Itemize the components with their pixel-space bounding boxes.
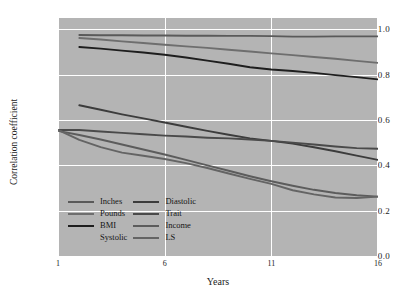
x-tick-label: 16 [358,259,395,268]
legend-swatch-pounds [68,213,94,215]
legend-swatch-ls [133,237,159,239]
x-tick-label: 1 [38,259,78,268]
legend-label-pounds: Pounds [100,208,127,219]
series-line-income [58,131,378,197]
x-tick-label: 11 [251,259,291,268]
chart-legend: Inches Diastolic Pounds Trait BMI Income… [68,196,196,243]
legend-label-systolic: Systolic [100,232,127,243]
series-line-inches [79,35,378,37]
legend-label-trait: Trait [165,208,196,219]
legend-swatch-bmi [68,225,94,227]
x-axis-label: Years [58,276,378,287]
legend-swatch-income [133,225,159,227]
legend-label-ls: LS [165,232,196,243]
legend-label-bmi: BMI [100,220,127,231]
series-line-bmi [79,47,378,79]
y-axis-label: Correlation coefficient [9,42,19,242]
x-tick-label: 6 [145,259,185,268]
legend-swatch-trait [133,213,159,215]
legend-label-diastolic: Diastolic [165,196,196,207]
legend-label-income: Income [165,220,196,231]
legend-swatch-inches [68,201,94,203]
legend-swatch-diastolic [133,201,159,203]
legend-swatch-systolic [68,237,94,239]
legend-label-inches: Inches [100,196,127,207]
